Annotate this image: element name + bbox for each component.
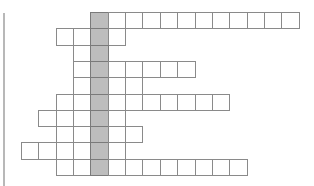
grid-cell[interactable] (142, 12, 161, 29)
grid-cell[interactable] (73, 142, 91, 160)
key-column-cell[interactable] (90, 77, 109, 95)
grid-cell[interactable] (177, 159, 196, 176)
grid-cell[interactable] (229, 12, 248, 29)
grid-cell[interactable] (108, 61, 126, 78)
grid-cell[interactable] (142, 159, 161, 176)
grid-cell[interactable] (108, 159, 126, 176)
grid-cell[interactable] (142, 61, 161, 78)
grid-cell[interactable] (108, 110, 126, 127)
grid-cell[interactable] (73, 45, 91, 62)
grid-cell[interactable] (212, 94, 230, 111)
grid-cell[interactable] (125, 61, 143, 78)
grid-cell[interactable] (56, 110, 74, 127)
grid-cell[interactable] (125, 77, 143, 95)
grid-cell[interactable] (195, 159, 213, 176)
grid-cell[interactable] (73, 126, 91, 143)
grid-cell[interactable] (73, 110, 91, 127)
grid-cell[interactable] (212, 159, 230, 176)
grid-cell[interactable] (38, 110, 57, 127)
grid-cell[interactable] (125, 159, 143, 176)
grid-cell[interactable] (108, 126, 126, 143)
grid-cell[interactable] (125, 126, 143, 143)
grid-cell[interactable] (281, 12, 300, 29)
grid-cell[interactable] (195, 12, 213, 29)
grid-cell[interactable] (56, 126, 74, 143)
grid-cell[interactable] (160, 94, 178, 111)
grid-cell[interactable] (73, 28, 91, 46)
key-column-cell[interactable] (90, 45, 109, 62)
grid-cell[interactable] (160, 12, 178, 29)
grid-cell[interactable] (56, 142, 74, 160)
grid-cell[interactable] (160, 159, 178, 176)
key-column-cell[interactable] (90, 12, 109, 29)
key-column-cell[interactable] (90, 110, 109, 127)
grid-cell[interactable] (56, 159, 74, 176)
key-column-cell[interactable] (90, 142, 109, 160)
grid-cell[interactable] (177, 61, 196, 78)
grid-cell[interactable] (73, 94, 91, 111)
grid-cell[interactable] (160, 61, 178, 78)
grid-cell[interactable] (108, 77, 126, 95)
grid-cell[interactable] (177, 94, 196, 111)
key-column-cell[interactable] (90, 94, 109, 111)
key-column-cell[interactable] (90, 28, 109, 46)
key-column-cell[interactable] (90, 159, 109, 176)
crossword-grid (0, 0, 314, 186)
grid-cell[interactable] (73, 61, 91, 78)
grid-cell[interactable] (56, 94, 74, 111)
grid-cell[interactable] (247, 12, 265, 29)
grid-cell[interactable] (177, 12, 196, 29)
grid-cell[interactable] (212, 12, 230, 29)
grid-cell[interactable] (264, 12, 282, 29)
grid-cell[interactable] (56, 28, 74, 46)
grid-cell[interactable] (229, 159, 248, 176)
grid-cell[interactable] (73, 159, 91, 176)
grid-cell[interactable] (108, 94, 126, 111)
grid-cell[interactable] (73, 77, 91, 95)
key-column-cell[interactable] (90, 126, 109, 143)
grid-cell[interactable] (108, 28, 126, 46)
grid-cell[interactable] (125, 94, 143, 111)
left-margin-bar (3, 13, 5, 186)
grid-cell[interactable] (38, 142, 57, 160)
grid-cell[interactable] (108, 142, 126, 160)
grid-cell[interactable] (195, 94, 213, 111)
grid-cell[interactable] (142, 94, 161, 111)
grid-cell[interactable] (108, 12, 126, 29)
grid-cell[interactable] (125, 12, 143, 29)
key-column-cell[interactable] (90, 61, 109, 78)
grid-cell[interactable] (21, 142, 39, 160)
